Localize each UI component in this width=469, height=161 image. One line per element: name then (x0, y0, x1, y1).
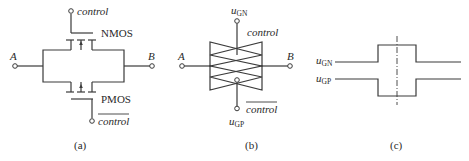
nmos-arrow-icon (79, 41, 83, 45)
inversion-bubble-icon (235, 78, 240, 83)
pmos-label: PMOS (101, 93, 131, 105)
ugp-terminal-icon (235, 106, 240, 111)
left-bus (43, 50, 71, 82)
nmos-label: NMOS (101, 27, 133, 39)
terminal-a-icon (13, 64, 18, 69)
ugn-terminal-icon (235, 19, 240, 24)
terminal-a-label: A (177, 50, 185, 62)
ugn-waveform (335, 45, 461, 62)
ugn-label: uGN (231, 4, 248, 18)
pmos-arrow-icon (79, 84, 83, 88)
control-bar-label: control (246, 103, 277, 115)
control-bar-terminal-icon (90, 119, 95, 124)
transmission-gate-figure: control NMOS A B (0, 0, 469, 161)
panel-b-transmission-gate-symbol: uGN control control uGP A B (b) (177, 4, 294, 152)
terminal-b-label: B (148, 50, 155, 62)
terminal-b-icon (150, 64, 155, 69)
control-terminal-icon (69, 9, 74, 14)
control-label: control (247, 26, 278, 38)
right-bus (92, 50, 124, 82)
caption-a: (a) (74, 139, 87, 152)
caption-c: (c) (390, 139, 403, 152)
terminal-b-icon (288, 64, 293, 69)
panel-a-cmos-transmission-gate: control NMOS A B (9, 5, 155, 152)
panel-c-waveforms: uGN uGP (c) (316, 36, 461, 152)
transmission-gate-icon (210, 42, 262, 90)
ugp-label: uGP (229, 115, 244, 129)
ugn-label: uGN (316, 54, 333, 68)
control-bar-label: control (98, 115, 129, 127)
ugp-waveform (335, 79, 461, 96)
terminal-a-label: A (9, 50, 17, 62)
control-label: control (77, 5, 108, 17)
caption-b: (b) (245, 139, 258, 152)
ugp-label: uGP (316, 72, 331, 86)
terminal-a-icon (180, 64, 185, 69)
terminal-b-label: B (287, 50, 294, 62)
